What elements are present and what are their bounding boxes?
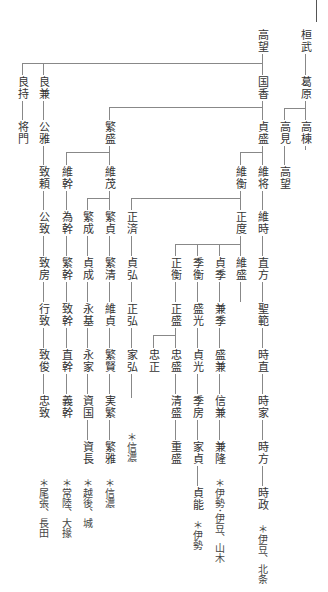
- node-tokikata: 時方: [256, 440, 268, 466]
- node-sukekuni: 資国: [81, 394, 93, 420]
- node-tamemoto: 為幹: [60, 210, 72, 236]
- node-kinmasa: 公雅: [37, 120, 49, 146]
- note-hojo: ＊伊豆、北条: [257, 524, 268, 584]
- note-owari: ＊尾張、長田: [38, 478, 49, 538]
- node-suehira: 季衡: [191, 256, 203, 282]
- node-shigemasa: 繁雅: [103, 440, 115, 466]
- line-koreshige-children: [87, 198, 109, 199]
- node-tokiie: 時家: [256, 394, 268, 420]
- node-sadahiro: 貞弘: [125, 256, 137, 282]
- node-shigekata: 繁賢: [103, 348, 115, 374]
- note-hitachi: ＊常陸、大掾: [61, 478, 72, 538]
- node-shigekiyo: 繁清: [103, 256, 115, 282]
- node-munetoshi: 致俊: [37, 348, 49, 374]
- node-morimitsu: 盛光: [191, 302, 203, 328]
- line-korehira-children: [131, 198, 240, 199]
- node-takamune: 高棟: [299, 120, 311, 146]
- node-muneyori: 致頼: [37, 165, 49, 191]
- node-masanori: 正度: [234, 210, 246, 236]
- node-tokinao: 時直: [256, 348, 268, 374]
- node-masazumi: 正済: [125, 210, 137, 236]
- node-nagaie: 永家: [81, 348, 93, 374]
- node-suefusa: 季房: [191, 394, 203, 420]
- node-shohan: 聖範: [256, 302, 268, 328]
- line-takamochi-children: [22, 63, 262, 64]
- node-naokata: 直方: [256, 256, 268, 282]
- node-sadasue: 貞季: [213, 256, 225, 282]
- node-masakado: 将門: [16, 120, 28, 146]
- node-kazurahara: 葛原: [299, 75, 311, 101]
- node-koremoto: 維幹: [60, 165, 72, 191]
- line-shigemori-children: [66, 152, 109, 153]
- node-kanesue: 兼季: [213, 302, 225, 328]
- node-tadamune: 忠致: [37, 394, 49, 420]
- node-takami: 高見: [278, 120, 290, 146]
- note-yamaki: ＊伊勢･伊豆、山木: [214, 478, 225, 563]
- node-kanmu: 桓武: [299, 28, 311, 54]
- node-iesada: 家貞: [191, 440, 203, 466]
- node-shigemoto: 繁幹: [60, 256, 72, 282]
- node-munemoto: 致幹: [60, 302, 72, 328]
- node-sanehige: 実繁: [103, 394, 115, 420]
- node-morikane: 盛兼: [213, 348, 225, 374]
- node-masahira: 正衡: [169, 256, 181, 282]
- node-iehiro: 家弘: [125, 348, 137, 374]
- note-shinano-1: ＊信濃: [126, 432, 137, 462]
- node-sadamitsu: 貞光: [191, 348, 203, 374]
- node-sadayoshi: 貞能: [191, 486, 203, 512]
- node-kanetaka: 兼隆: [213, 440, 225, 466]
- node-yoshikane: 良兼: [37, 75, 49, 101]
- line-masanori-children: [175, 244, 240, 245]
- node-koremori: 維盛: [234, 256, 246, 282]
- page-top-mark: [316, 0, 317, 22]
- node-sadamori: 貞盛: [256, 120, 268, 146]
- node-naomoto: 直幹: [60, 348, 72, 374]
- node-shigenari: 繁成: [81, 210, 93, 236]
- node-sadanari: 貞成: [81, 256, 93, 282]
- node-yoshimochi: 良持: [16, 75, 28, 101]
- node-shigemori-son: 重盛: [169, 440, 181, 466]
- node-yoshimoto: 義幹: [60, 394, 72, 420]
- node-tokimasa: 時政: [256, 486, 268, 512]
- node-koreshige: 維茂: [103, 165, 115, 191]
- node-munefusa: 致房: [37, 256, 49, 282]
- node-koretoki: 維時: [256, 210, 268, 236]
- node-korehira: 維衡: [234, 165, 246, 191]
- node-takamochi: 高望: [256, 28, 268, 54]
- node-kiyomori: 清盛: [169, 394, 181, 420]
- line-sadamori-children: [240, 152, 262, 153]
- node-tadamori: 忠盛: [169, 348, 181, 374]
- note-echigo: ＊越後、城: [82, 478, 93, 528]
- line-masamori-children: [153, 335, 175, 336]
- node-nagamoto: 永基: [81, 302, 93, 328]
- note-ise: ＊伊勢: [192, 520, 203, 550]
- node-yukimune: 行致: [37, 302, 49, 328]
- node-sukenaga: 資長: [81, 440, 93, 466]
- node-shigesada: 繁貞: [103, 210, 115, 236]
- node-kunika: 国香: [256, 75, 268, 101]
- line-kunika-children: [109, 107, 262, 108]
- node-koresada: 維貞: [103, 302, 115, 328]
- note-shinano-2: ＊信濃: [104, 478, 115, 508]
- node-koremasa: 維将: [256, 165, 268, 191]
- node-masahiro: 正弘: [125, 302, 137, 328]
- node-takamochi-kanmu: 高望: [278, 165, 290, 191]
- node-kinmune: 公致: [37, 210, 49, 236]
- line-kazurahara-children: [284, 108, 305, 109]
- node-tadamasa: 忠正: [147, 348, 159, 374]
- node-masamori: 正盛: [169, 302, 181, 328]
- node-nobukane: 信兼: [213, 394, 225, 420]
- node-shigemori-b: 繁盛: [103, 120, 115, 146]
